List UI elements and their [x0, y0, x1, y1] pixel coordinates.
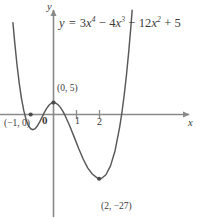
annotation-label-local-maximum: (0, 5): [57, 84, 78, 94]
origin-label: 0: [42, 115, 48, 126]
annotation-marker-local-maximum: [51, 101, 55, 105]
graph-figure: y = 3x4 − 4x3 − 12x2 + 5 y x 0 1 2 (−1, …: [0, 0, 202, 218]
y-axis-label: y: [47, 2, 52, 13]
annotation-marker-x-intercept-left: [29, 112, 33, 116]
x-axis-label: x: [188, 118, 193, 129]
quartic-curve: [13, 10, 132, 179]
annotation-label-x-intercept-left: (−1, 0): [4, 119, 30, 129]
x-tick-label-2: 2: [97, 117, 102, 127]
annotation-markers: [29, 101, 102, 181]
x-tick-label-1: 1: [75, 117, 80, 127]
equation-label: y = 3x4 − 4x3 − 12x2 + 5: [59, 17, 181, 30]
annotation-label-global-minimum: (2, −27): [101, 202, 132, 212]
plot-canvas: [0, 0, 202, 218]
annotation-marker-global-minimum: [97, 177, 101, 181]
